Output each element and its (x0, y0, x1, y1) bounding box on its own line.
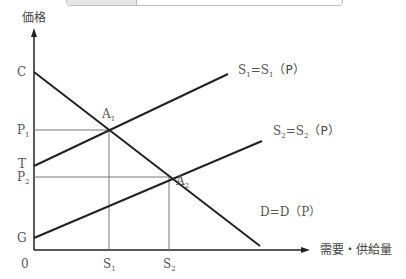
point-a2-label: A2 (176, 175, 189, 190)
tick-c: C (17, 66, 26, 78)
supply-curve-2-label: S2=S2（P） (273, 125, 340, 140)
x-axis-label: 需要・供給量 (320, 244, 392, 256)
point-a1-label: A1 (102, 108, 115, 123)
x-axis-arrow-icon (301, 247, 310, 253)
demand-curve-label: D=D（P） (260, 206, 321, 218)
supply-curve-1-label: S1=S1（P） (238, 64, 305, 79)
y-axis-label: 価格 (22, 12, 46, 24)
origin-label: 0 (21, 258, 29, 270)
supply-demand-diagram (0, 0, 406, 279)
supply-curve-2 (34, 141, 262, 238)
supply-curve-1 (34, 74, 228, 166)
demand-curve (34, 72, 260, 246)
tick-p1: P1 (17, 124, 30, 139)
tick-g: G (17, 232, 27, 244)
tick-s2: S2 (163, 258, 176, 273)
tick-p2: P2 (17, 171, 30, 186)
tick-t: T (18, 158, 26, 170)
tick-s1: S1 (103, 258, 116, 273)
y-axis-arrow-icon (31, 28, 37, 37)
